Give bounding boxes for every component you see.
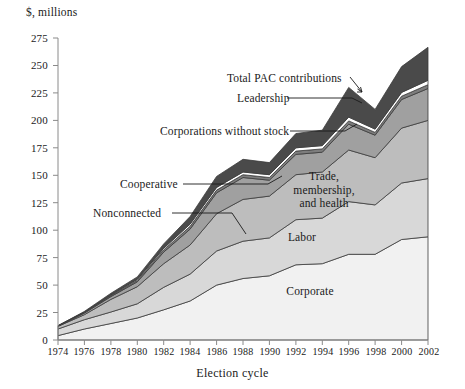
chart-container: $, millions 275 250 225 200 175 150 125 … xyxy=(0,0,465,389)
label-trade-line2: membership, xyxy=(293,184,354,196)
chart-plot xyxy=(0,0,465,389)
label-trade-membership-health: Trade, membership, and health xyxy=(281,170,367,211)
callout-corporations-without-stock: Corporations without stock xyxy=(160,125,289,138)
x-axis-title: Election cycle xyxy=(0,366,465,381)
callout-nonconnected: Nonconnected xyxy=(93,207,161,220)
label-labor: Labor xyxy=(272,231,332,245)
x-tick-2002: 2002 xyxy=(409,346,449,357)
callout-leadership: Leadership xyxy=(237,92,290,105)
callout-total-pac-contributions: Total PAC contributions xyxy=(227,72,342,85)
callout-cooperative: Cooperative xyxy=(120,178,178,191)
label-trade-line3: and health xyxy=(299,197,348,209)
label-trade-line1: Trade, xyxy=(309,170,339,182)
label-corporate: Corporate xyxy=(270,285,350,299)
